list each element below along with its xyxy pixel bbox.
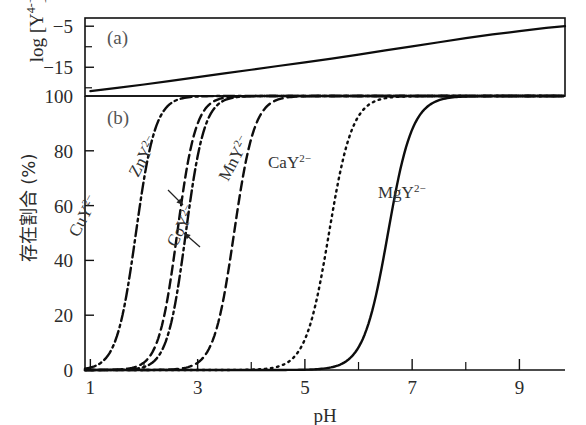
series-label-base: ZnY xyxy=(125,143,156,179)
series-label-superscript: 2− xyxy=(299,152,311,164)
series-label-mny2: MnY2− xyxy=(214,132,254,183)
x-axis-title: pH xyxy=(313,405,337,425)
curve-coy2 xyxy=(85,96,564,370)
panel-b-y-ticklabel: 40 xyxy=(54,250,73,271)
curve-cuy2 xyxy=(85,96,564,369)
series-label-text: ZnY2− xyxy=(124,133,162,180)
series-label-base: CaY xyxy=(268,153,299,172)
series-label-mgy2: MgY2− xyxy=(378,182,426,202)
leader-arrow-1 xyxy=(168,190,183,205)
x-ticklabel: 5 xyxy=(300,377,310,398)
x-ticklabel: 3 xyxy=(193,377,203,398)
x-ticklabel: 7 xyxy=(407,377,417,398)
panel-b-tag: (b) xyxy=(107,107,129,129)
panel-b-y-ticklabel: 100 xyxy=(45,86,74,107)
panel-a-tag: (a) xyxy=(107,27,128,49)
series-label-base: MnY xyxy=(215,143,249,184)
plot-canvas: −5−15(a) 02040608010013579(b) CuY2−ZnY2−… xyxy=(0,0,586,425)
series-label-base: CoY xyxy=(163,213,195,250)
leader-arrow-2 xyxy=(184,233,200,247)
panel-b-y-ticklabel: 20 xyxy=(54,305,73,326)
curve-log-y4 xyxy=(90,26,565,91)
axis-titles: pH xyxy=(313,405,337,425)
panel-b: 02040608010013579(b) xyxy=(45,86,566,398)
series-label-text: CaY2− xyxy=(268,152,311,172)
series-label-zny2: ZnY2− xyxy=(124,133,162,180)
series-label-text: MgY2− xyxy=(378,182,426,202)
panel-b-y-ticklabel: 0 xyxy=(64,360,74,381)
series-label-text: MnY2− xyxy=(214,132,254,183)
panel-b-y-ticklabel: 60 xyxy=(54,196,73,217)
x-ticklabel: 1 xyxy=(86,377,96,398)
series-label-base: MgY xyxy=(378,183,414,202)
panel-a-frame xyxy=(85,18,565,96)
series-label-superscript: 2− xyxy=(414,182,426,194)
edta-speciation-figure: log [Y4-] 存在割合 (%) −5−15(a) 020406080100… xyxy=(0,0,586,425)
panel-b-y-ticklabel: 80 xyxy=(54,141,73,162)
curve-mgy2 xyxy=(85,96,564,370)
series-label-cay2: CaY2− xyxy=(268,152,311,172)
panel-a-y-ticklabel: −5 xyxy=(53,16,73,37)
curve-mny2 xyxy=(85,96,564,370)
curve-cay2 xyxy=(85,96,564,370)
x-ticklabel: 9 xyxy=(515,377,525,398)
panel-a-y-ticklabel: −15 xyxy=(43,57,73,78)
panel-a: −5−15(a) xyxy=(43,16,565,96)
curve-zny2 xyxy=(85,96,564,370)
series-annotations: CuY2−ZnY2−CoY2−MnY2−CaY2−MgY2− xyxy=(64,132,426,249)
